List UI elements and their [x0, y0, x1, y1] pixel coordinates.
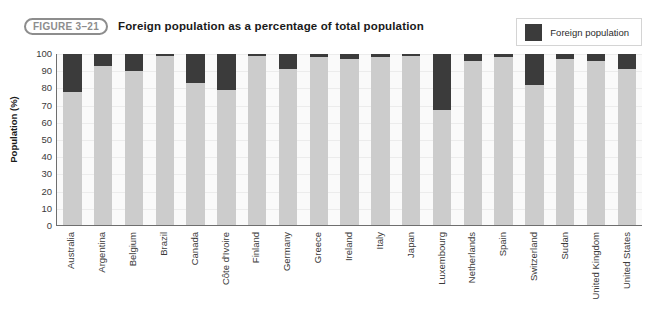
bar-slot[interactable] — [581, 54, 612, 225]
x-axis-tick-slot: Côte d'Ivoire — [210, 230, 241, 314]
stacked-bar[interactable] — [156, 54, 174, 225]
figure-number-label: FIGURE 3–21 — [33, 22, 99, 32]
bar-segment-foreign-population[interactable] — [464, 54, 482, 61]
y-axis-tick-label: 0 — [26, 221, 52, 231]
bar-segment-native-population[interactable] — [402, 56, 420, 225]
stacked-bar[interactable] — [94, 54, 112, 225]
stacked-bar[interactable] — [125, 54, 143, 225]
bar-segment-foreign-population[interactable] — [94, 54, 112, 66]
bar-slot[interactable] — [550, 54, 581, 225]
x-axis-tick-slot: Netherlands — [457, 230, 488, 314]
stacked-bar[interactable] — [217, 54, 235, 225]
y-axis-tick-labels: 1009080706050403020100 — [26, 54, 52, 226]
bar-series-container — [57, 54, 642, 225]
bar-slot[interactable] — [457, 54, 488, 225]
bar-slot[interactable] — [273, 54, 304, 225]
bar-segment-native-population[interactable] — [156, 56, 174, 225]
x-axis-tick-label: Finland — [252, 232, 262, 263]
bar-slot[interactable] — [303, 54, 334, 225]
bar-slot[interactable] — [488, 54, 519, 225]
stacked-bar[interactable] — [556, 54, 574, 225]
x-axis-tick-label: Netherlands — [468, 232, 478, 283]
bar-segment-native-population[interactable] — [340, 59, 358, 225]
x-axis-tick-label: Brazil — [159, 232, 169, 256]
stacked-bar[interactable] — [402, 54, 420, 225]
bar-segment-native-population[interactable] — [63, 92, 81, 225]
x-axis-tick-slot: Germany — [272, 230, 303, 314]
bar-segment-foreign-population[interactable] — [63, 54, 81, 92]
bar-slot[interactable] — [149, 54, 180, 225]
stacked-bar[interactable] — [279, 54, 297, 225]
bar-slot[interactable] — [88, 54, 119, 225]
stacked-bar[interactable] — [63, 54, 81, 225]
bar-segment-foreign-population[interactable] — [587, 54, 605, 61]
bar-segment-foreign-population[interactable] — [186, 54, 204, 83]
bar-segment-native-population[interactable] — [525, 85, 543, 225]
x-axis-tick-label: United Kingdom — [591, 232, 601, 300]
bar-segment-foreign-population[interactable] — [525, 54, 543, 85]
bar-segment-foreign-population[interactable] — [618, 54, 636, 69]
bar-segment-native-population[interactable] — [94, 66, 112, 225]
x-axis-tick-label: Canada — [190, 232, 200, 265]
x-axis-tick-slot: Japan — [395, 230, 426, 314]
stacked-bar[interactable] — [371, 54, 389, 225]
chart-plot-wrapper: Population (%) 1009080706050403020100 Au… — [0, 50, 650, 314]
stacked-bar[interactable] — [310, 54, 328, 225]
stacked-bar[interactable] — [340, 54, 358, 225]
figure-number-badge: FIGURE 3–21 — [24, 18, 108, 35]
x-axis-tick-slot: Argentina — [87, 230, 118, 314]
bar-segment-native-population[interactable] — [587, 61, 605, 225]
bar-segment-foreign-population[interactable] — [217, 54, 235, 90]
bar-segment-native-population[interactable] — [556, 59, 574, 225]
bar-segment-native-population[interactable] — [494, 57, 512, 225]
x-axis-tick-slot: Australia — [56, 230, 87, 314]
bar-slot[interactable] — [334, 54, 365, 225]
x-axis-tick-slot: Ireland — [334, 230, 365, 314]
stacked-bar[interactable] — [494, 54, 512, 225]
bar-segment-foreign-population[interactable] — [279, 54, 297, 69]
bar-slot[interactable] — [57, 54, 88, 225]
chart-title: Foreign population as a percentage of to… — [118, 18, 424, 35]
x-axis-tick-label: Ireland — [344, 232, 354, 261]
x-axis-tick-slot: Luxembourg — [426, 230, 457, 314]
y-axis-tick-label: 40 — [26, 152, 52, 162]
x-axis-tick-label: Switzerland — [529, 232, 539, 281]
bar-slot[interactable] — [519, 54, 550, 225]
stacked-bar[interactable] — [525, 54, 543, 225]
bar-slot[interactable] — [119, 54, 150, 225]
y-axis-tick-label: 80 — [26, 84, 52, 94]
x-axis-tick-slot: Canada — [179, 230, 210, 314]
bar-slot[interactable] — [211, 54, 242, 225]
bar-slot[interactable] — [611, 54, 642, 225]
stacked-bar[interactable] — [464, 54, 482, 225]
bar-slot[interactable] — [242, 54, 273, 225]
x-axis-tick-label: Australia — [67, 232, 77, 269]
bar-segment-native-population[interactable] — [248, 56, 266, 225]
legend-swatch-foreign-population — [525, 24, 542, 41]
bar-segment-foreign-population[interactable] — [125, 54, 143, 71]
bar-segment-native-population[interactable] — [310, 57, 328, 225]
bar-segment-native-population[interactable] — [433, 110, 451, 225]
bar-segment-native-population[interactable] — [279, 69, 297, 225]
bar-segment-native-population[interactable] — [186, 83, 204, 225]
x-axis-tick-label: Côte d'Ivoire — [221, 232, 231, 285]
bar-segment-foreign-population[interactable] — [433, 54, 451, 110]
bar-segment-native-population[interactable] — [371, 57, 389, 225]
bar-segment-native-population[interactable] — [125, 71, 143, 225]
bar-slot[interactable] — [365, 54, 396, 225]
bar-slot[interactable] — [427, 54, 458, 225]
stacked-bar[interactable] — [587, 54, 605, 225]
bar-segment-native-population[interactable] — [464, 61, 482, 225]
bar-slot[interactable] — [180, 54, 211, 225]
x-axis-tick-slot: Finland — [241, 230, 272, 314]
x-axis-tick-label: Spain — [498, 232, 508, 256]
y-axis-tick-label: 60 — [26, 118, 52, 128]
stacked-bar[interactable] — [618, 54, 636, 225]
stacked-bar[interactable] — [248, 54, 266, 225]
stacked-bar[interactable] — [186, 54, 204, 225]
y-axis-tick-label: 50 — [26, 135, 52, 145]
bar-slot[interactable] — [396, 54, 427, 225]
bar-segment-native-population[interactable] — [618, 69, 636, 225]
stacked-bar[interactable] — [433, 54, 451, 225]
bar-segment-native-population[interactable] — [217, 90, 235, 225]
